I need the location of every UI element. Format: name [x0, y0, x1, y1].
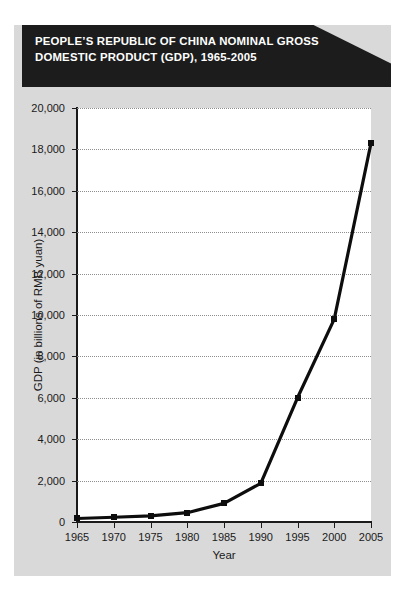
x-axis-label: 1965 — [65, 531, 89, 543]
x-axis-label: 2000 — [322, 531, 346, 543]
x-axis-tick — [298, 522, 299, 528]
x-axis-label: 1970 — [102, 531, 126, 543]
x-axis-tick — [187, 522, 188, 528]
data-point-marker — [221, 500, 227, 506]
x-axis-label: 1990 — [249, 531, 273, 543]
x-axis-label: 1995 — [285, 531, 309, 543]
y-axis-title: GDP (in billions of RMB yuan) — [32, 239, 44, 392]
y-axis-label: 4,000 — [14, 433, 65, 445]
x-axis-label: 2005 — [359, 531, 383, 543]
data-point-marker — [111, 514, 117, 520]
data-point-marker — [258, 480, 264, 486]
data-point-marker — [184, 510, 190, 516]
x-axis-tick — [151, 522, 152, 528]
x-axis-tick — [114, 522, 115, 528]
y-axis-label: 2,000 — [14, 475, 65, 487]
y-axis-label: 16,000 — [14, 185, 65, 197]
data-point-marker — [148, 513, 154, 519]
y-axis-label: 14,000 — [14, 226, 65, 238]
x-axis-tick — [261, 522, 262, 528]
chart-title-line-2: DOMESTIC PRODUCT (GDP), 1965-2005 — [35, 50, 381, 66]
y-axis-label: 0 — [14, 516, 65, 528]
x-axis-tick — [77, 522, 78, 528]
y-axis-label: 6,000 — [14, 392, 65, 404]
y-axis-label: 18,000 — [14, 143, 65, 155]
x-axis-label: 1980 — [175, 531, 199, 543]
y-axis-label: 20,000 — [14, 102, 65, 114]
chart-title-line-1: PEOPLE’S REPUBLIC OF CHINA NOMINAL GROSS — [35, 34, 381, 50]
data-point-marker — [295, 395, 301, 401]
data-point-marker — [74, 515, 80, 521]
data-point-marker — [331, 316, 337, 322]
data-series-nominal-gdp — [77, 108, 371, 522]
data-point-marker — [368, 140, 374, 146]
x-axis-tick — [371, 522, 372, 528]
x-axis-tick — [334, 522, 335, 528]
x-axis-label: 1975 — [138, 531, 162, 543]
gdp-line-path — [77, 108, 371, 522]
x-axis-label: 1985 — [212, 531, 236, 543]
x-axis-title: Year — [212, 549, 235, 561]
chart-figure: PEOPLE’S REPUBLIC OF CHINA NOMINAL GROSS… — [14, 25, 391, 576]
x-axis-tick — [224, 522, 225, 528]
